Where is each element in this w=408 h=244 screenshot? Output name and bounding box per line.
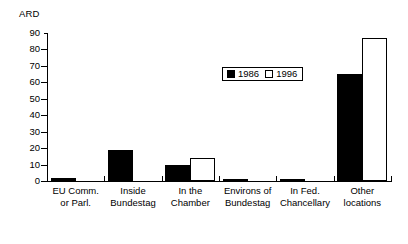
bar-1996-5 [362,38,387,181]
x-axis-category-label: InsideBundestag [104,185,161,208]
x-axis-category-label: In Fed.Chancellary [276,185,333,208]
bar-1986-2 [165,165,190,181]
x-axis-tick [391,176,392,182]
x-axis-category-label: Otherlocations [334,185,391,208]
bar-1986-4 [280,179,305,181]
legend-label-1986: 1986 [238,69,259,79]
bars-layer [47,33,391,181]
y-axis-tick-label: 70 [4,61,40,71]
y-axis-tick-label: 40 [4,110,40,120]
legend-entry-1986: 1986 [227,69,259,79]
y-axis-tick-label: 10 [4,160,40,170]
bar-1996-2 [190,158,215,181]
x-axis-category-label: Environs ofBundestag [219,185,276,208]
x-axis-category-labels: EU Comm.or Parl.InsideBundestagIn theCha… [47,185,391,219]
bar-1986-0 [51,178,76,181]
chart-legend: 1986 1996 [222,67,303,81]
legend-entry-1996: 1996 [265,69,297,79]
y-axis-tick-label: 60 [4,77,40,87]
x-axis-category-label: EU Comm.or Parl. [47,185,104,208]
bar-chart: ARD 0102030405060708090 EU Comm.or Parl.… [0,0,408,244]
bar-1986-5 [337,74,362,181]
y-axis-tick-label: 0 [4,176,40,186]
y-axis-tick-label: 30 [4,127,40,137]
legend-swatch-icon-1986 [227,70,235,78]
y-axis-tick-label: 50 [4,94,40,104]
legend-label-1996: 1996 [276,69,297,79]
bar-1986-1 [108,150,133,181]
y-axis-tick-label: 90 [4,28,40,38]
bar-1986-3 [223,179,248,181]
y-axis-tick-label: 80 [4,44,40,54]
y-axis-title: ARD [19,8,40,19]
legend-swatch-icon-1996 [265,70,273,78]
x-axis-category-label: In theChamber [162,185,219,208]
y-axis-tick-label: 20 [4,143,40,153]
